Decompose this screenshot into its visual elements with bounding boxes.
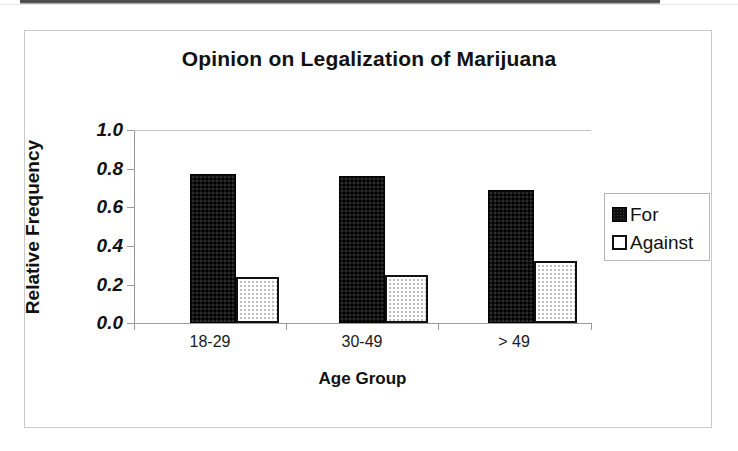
y-tick-label-0-4: 0.4 bbox=[71, 235, 123, 257]
plot-area bbox=[134, 130, 591, 323]
x-tick-boundary-2 bbox=[438, 323, 439, 330]
y-tick-0-2 bbox=[127, 285, 134, 286]
x-tick-label-30-49: 30-49 bbox=[302, 333, 422, 351]
y-tick-label-0-6: 0.6 bbox=[71, 196, 123, 218]
plot-top-gridline bbox=[134, 130, 591, 131]
legend-label-against: Against bbox=[630, 233, 693, 252]
y-tick-label-0-0: 0.0 bbox=[71, 312, 123, 334]
y-tick-0-4 bbox=[127, 246, 134, 247]
x-tick-boundary-0 bbox=[134, 323, 135, 330]
x-tick-label-over-49: > 49 bbox=[454, 333, 574, 351]
scan-artifact-line bbox=[0, 4, 738, 5]
x-axis-line bbox=[134, 323, 592, 324]
y-axis-title-label: Relative Frequency bbox=[22, 139, 44, 313]
x-tick-label-18-29: 18-29 bbox=[150, 333, 270, 351]
x-tick-boundary-3 bbox=[591, 323, 592, 330]
x-axis-title: Age Group bbox=[134, 369, 591, 389]
chart-legend: For Against bbox=[604, 193, 710, 261]
y-tick-label-0-2: 0.2 bbox=[71, 274, 123, 296]
legend-label-for: For bbox=[630, 205, 659, 224]
legend-swatch-for-icon bbox=[612, 207, 627, 222]
y-tick-label-1-0: 1.0 bbox=[71, 119, 123, 141]
bar-against-30-49 bbox=[385, 275, 428, 323]
x-tick-boundary-1 bbox=[286, 323, 287, 330]
chart-title: Opinion on Legalization of Marijuana bbox=[25, 47, 713, 71]
y-tick-0-6 bbox=[127, 207, 134, 208]
y-tick-0-8 bbox=[127, 169, 134, 170]
legend-item-against: Against bbox=[612, 228, 709, 256]
bar-against-over-49 bbox=[534, 261, 577, 323]
bar-for-18-29 bbox=[190, 174, 236, 323]
bar-for-30-49 bbox=[339, 176, 385, 323]
chart-frame: Opinion on Legalization of Marijuana Rel… bbox=[24, 30, 712, 428]
legend-swatch-against-icon bbox=[612, 235, 627, 250]
y-axis-title: Relative Frequency bbox=[19, 130, 47, 323]
bar-for-over-49 bbox=[488, 190, 534, 323]
y-tick-label-0-8: 0.8 bbox=[71, 158, 123, 180]
y-tick-1-0 bbox=[127, 130, 134, 131]
bar-against-18-29 bbox=[236, 277, 279, 323]
legend-item-for: For bbox=[612, 200, 709, 228]
y-tick-0-0 bbox=[127, 323, 134, 324]
